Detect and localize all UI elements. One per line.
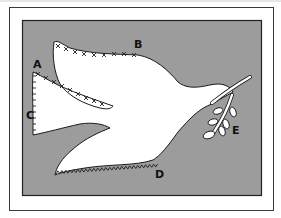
label-d: D [155,168,164,181]
dove-diagram: A B C D E [0,0,281,218]
label-c: C [26,109,34,122]
label-e: E [232,124,240,137]
label-a: A [33,58,42,71]
label-b: B [134,38,142,51]
